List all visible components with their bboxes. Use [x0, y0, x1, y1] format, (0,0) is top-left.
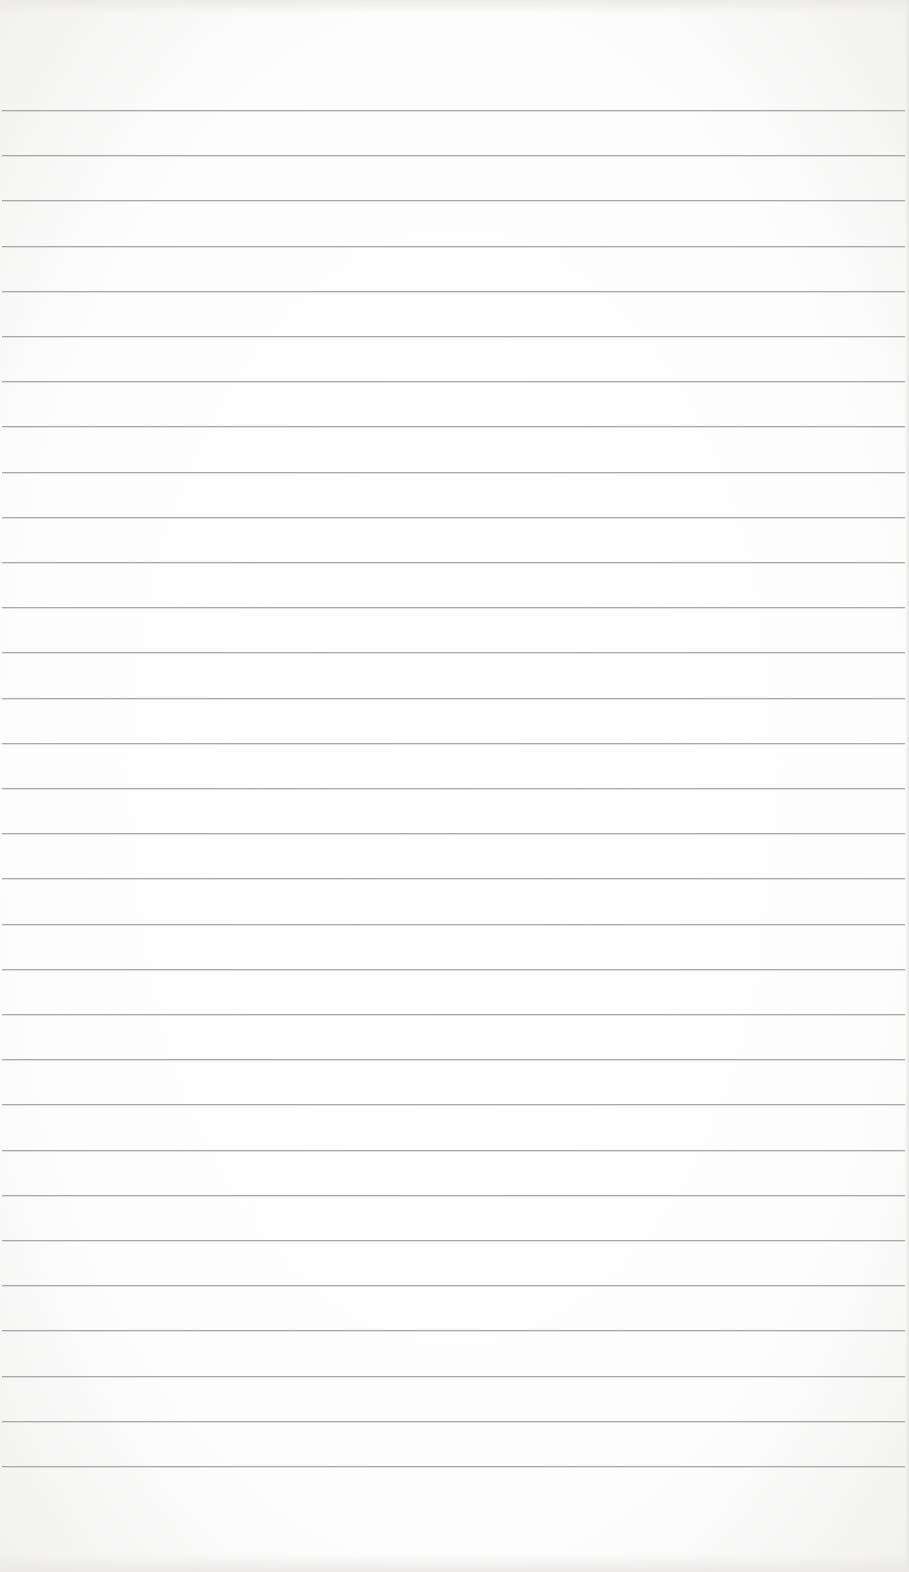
ruled-line — [2, 924, 905, 925]
ruled-line — [2, 246, 905, 247]
ruled-line — [2, 698, 905, 699]
paper-edge — [905, 0, 909, 1572]
ruled-line — [2, 969, 905, 970]
ruled-line — [2, 878, 905, 879]
ruled-line — [2, 607, 905, 608]
ruled-line — [2, 652, 905, 653]
ruled-line — [2, 1421, 905, 1422]
ruled-line — [2, 1285, 905, 1286]
ruled-line — [2, 1240, 905, 1241]
ruled-line — [2, 1195, 905, 1196]
ruled-line — [2, 472, 905, 473]
ruled-line — [2, 1104, 905, 1105]
ruled-line — [2, 788, 905, 789]
ruled-line — [2, 155, 905, 156]
ruled-line — [2, 1376, 905, 1377]
ruled-line — [2, 1014, 905, 1015]
ruled-line — [2, 200, 905, 201]
ruled-line — [2, 517, 905, 518]
ruled-line — [2, 1059, 905, 1060]
ruled-line — [2, 1150, 905, 1151]
ruled-line — [2, 833, 905, 834]
ruled-line — [2, 336, 905, 337]
ruled-line — [2, 562, 905, 563]
ruled-line — [2, 291, 905, 292]
ruled-line — [2, 381, 905, 382]
lined-paper-sheet — [0, 0, 909, 1572]
ruled-line — [2, 110, 905, 111]
ruled-line — [2, 743, 905, 744]
ruled-line — [2, 1466, 905, 1467]
ruled-line — [2, 426, 905, 427]
ruled-line — [2, 1330, 905, 1331]
